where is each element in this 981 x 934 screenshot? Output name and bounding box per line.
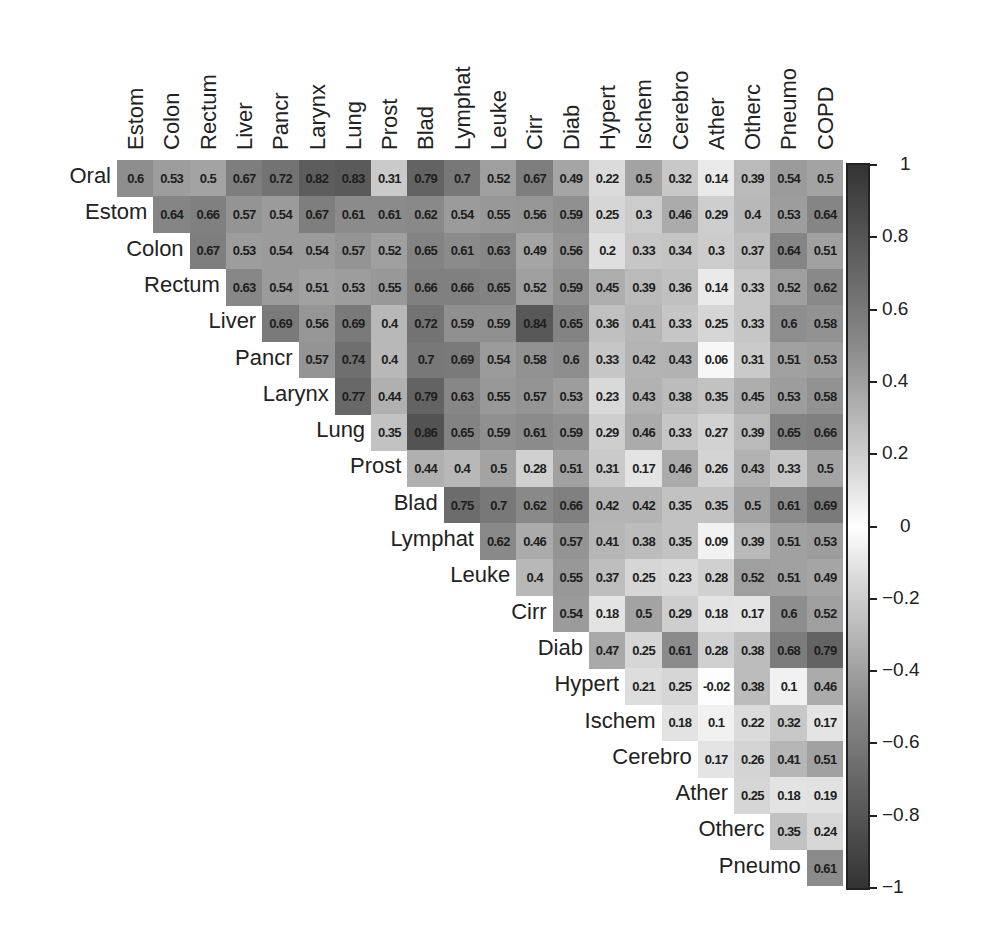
- heatmap-cell: 0.29: [589, 414, 626, 451]
- heatmap-cell: 0.33: [662, 305, 699, 342]
- heatmap-cell: 0.79: [407, 160, 444, 197]
- row-label: Liver: [209, 308, 257, 334]
- heatmap-cell: 0.4: [371, 305, 408, 342]
- heatmap-cell: 0.58: [516, 342, 553, 379]
- colorbar-tick: [870, 236, 877, 238]
- heatmap-cell: 0.39: [734, 523, 771, 560]
- heatmap-cell: 0.55: [371, 269, 408, 306]
- heatmap-cell: 0.33: [662, 414, 699, 451]
- heatmap-cell: 0.38: [625, 523, 662, 560]
- heatmap-cell: 0.44: [407, 450, 444, 487]
- heatmap-cell: 0.22: [734, 705, 771, 742]
- heatmap-cell: 0.35: [770, 813, 807, 850]
- column-label: Liver: [232, 102, 258, 150]
- heatmap-cell: 0.35: [698, 487, 735, 524]
- colorbar-tick: [870, 453, 877, 455]
- colorbar-tick-label: 0.6: [882, 298, 908, 320]
- heatmap-cell: 0.24: [807, 813, 844, 850]
- heatmap-cell: 0.66: [553, 487, 590, 524]
- heatmap-cell: 0.35: [371, 414, 408, 451]
- column-label: Lung: [341, 101, 367, 150]
- column-label: Pneumo: [776, 68, 802, 150]
- heatmap-cell: 0.42: [589, 487, 626, 524]
- heatmap-cell: 0.32: [662, 160, 699, 197]
- colorbar-tick-label: 0.8: [882, 225, 908, 247]
- heatmap-cell: 0.53: [335, 269, 372, 306]
- heatmap-cell: 0.55: [480, 378, 517, 415]
- row-label: Estom: [85, 199, 147, 225]
- heatmap-cell: 0.17: [625, 450, 662, 487]
- heatmap-cell: 0.23: [662, 559, 699, 596]
- heatmap-cell: 0.43: [734, 450, 771, 487]
- heatmap-cell: 0.25: [662, 668, 699, 705]
- heatmap-cell: 0.6: [770, 596, 807, 633]
- colorbar-tick-label: −1: [882, 876, 904, 898]
- heatmap-cell: 0.19: [807, 777, 844, 814]
- heatmap-cell: 0.33: [589, 342, 626, 379]
- heatmap-cell: 0.74: [335, 342, 372, 379]
- heatmap-cell: 0.27: [698, 414, 735, 451]
- heatmap-cell: 0.67: [226, 160, 263, 197]
- heatmap-cell: 0.32: [770, 705, 807, 742]
- colorbar-tick: [870, 164, 877, 166]
- heatmap-cell: 0.25: [698, 305, 735, 342]
- heatmap-cell: 0.4: [371, 342, 408, 379]
- heatmap-cell: 0.52: [480, 160, 517, 197]
- heatmap-cell: 0.37: [589, 559, 626, 596]
- heatmap-cell: 0.62: [407, 196, 444, 233]
- column-label: Diab: [559, 105, 585, 150]
- heatmap-cell: 0.6: [770, 305, 807, 342]
- heatmap-cell: 0.61: [516, 414, 553, 451]
- heatmap-cell: 0.23: [589, 378, 626, 415]
- heatmap-cell: 0.3: [625, 196, 662, 233]
- heatmap-cell: 0.82: [299, 160, 336, 197]
- heatmap-cell: 0.7: [407, 342, 444, 379]
- heatmap-cell: 0.52: [516, 269, 553, 306]
- column-label: Prost: [377, 99, 403, 150]
- row-label: Larynx: [263, 381, 329, 407]
- colorbar-tick-label: −0.2: [882, 587, 920, 609]
- heatmap-cell: 0.52: [807, 596, 844, 633]
- heatmap-cell: 0.39: [734, 414, 771, 451]
- heatmap-cell: 0.65: [480, 269, 517, 306]
- heatmap-cell: 0.69: [444, 342, 481, 379]
- heatmap-cell: 0.69: [335, 305, 372, 342]
- heatmap-cell: 0.5: [625, 596, 662, 633]
- heatmap-cell: 0.1: [770, 668, 807, 705]
- column-label: Leuke: [486, 90, 512, 150]
- correlation-heatmap: EstomColonRectumLiverPancrLarynxLungPros…: [0, 0, 981, 934]
- heatmap-cell: 0.25: [625, 632, 662, 669]
- heatmap-cell: 0.39: [734, 160, 771, 197]
- heatmap-cell: 0.59: [553, 196, 590, 233]
- heatmap-cell: 0.18: [698, 596, 735, 633]
- heatmap-cell: 0.53: [770, 196, 807, 233]
- heatmap-cell: 0.18: [589, 596, 626, 633]
- colorbar-tick-label: 0: [900, 515, 911, 537]
- heatmap-cell: 0.65: [407, 233, 444, 270]
- heatmap-cell: 0.79: [407, 378, 444, 415]
- heatmap-cell: 0.39: [625, 269, 662, 306]
- column-label: Cirr: [522, 115, 548, 150]
- heatmap-cell: 0.47: [589, 632, 626, 669]
- heatmap-cell: 0.1: [698, 705, 735, 742]
- heatmap-cell: 0.55: [553, 559, 590, 596]
- row-label: Pneumo: [719, 853, 801, 879]
- column-label: Pancr: [268, 93, 294, 150]
- heatmap-cell: 0.65: [444, 414, 481, 451]
- column-label: Cerebro: [668, 71, 694, 150]
- heatmap-cell: 0.5: [807, 450, 844, 487]
- row-label: Prost: [350, 453, 401, 479]
- heatmap-cell: 0.54: [480, 342, 517, 379]
- heatmap-cell: 0.28: [698, 632, 735, 669]
- heatmap-cell: 0.59: [444, 305, 481, 342]
- heatmap-cell: 0.54: [262, 233, 299, 270]
- heatmap-cell: 0.56: [553, 233, 590, 270]
- row-label: Cirr: [511, 599, 546, 625]
- colorbar-tick-label: −0.6: [882, 731, 920, 753]
- heatmap-cell: 0.5: [625, 160, 662, 197]
- heatmap-cell: 0.42: [625, 342, 662, 379]
- heatmap-cell: 0.35: [662, 523, 699, 560]
- colorbar-tick-label: −0.8: [882, 804, 920, 826]
- heatmap-cell: 0.72: [262, 160, 299, 197]
- colorbar-tick-label: 0.2: [882, 442, 908, 464]
